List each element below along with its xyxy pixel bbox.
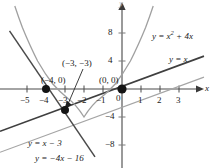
coordinate-graph-figure: −5 −4 −3 −2 −1 0 1 2 3 8 4 −4 −8 x y y =…: [0, 0, 213, 168]
point-label-0-0: (0, 0): [99, 76, 119, 85]
equation-label-identity: y = x: [169, 55, 188, 64]
y-axis-name-label: y: [119, 0, 123, 8]
x-tick-label-neg4: −4: [39, 96, 48, 105]
data-point-neg4-0: [42, 85, 50, 93]
equation-label-x-minus-3: y = x − 3: [28, 139, 62, 148]
x-axis-arrowhead: [196, 85, 204, 92]
point-label-neg4-0: (−4, 0): [41, 76, 66, 85]
equation-label-steep-negative: y = −4x − 16: [35, 154, 84, 163]
equation-label-parabola: y = x2 + 4x: [152, 32, 193, 41]
x-tick-label-0: 0: [116, 94, 120, 103]
x-tick-label-1: 1: [138, 96, 142, 105]
x-tick-label-3: 3: [176, 96, 180, 105]
x-tick-label-neg1: −1: [96, 96, 105, 105]
equation-parabola-lhs: y = x: [152, 31, 171, 41]
equation-parabola-rhs: + 4x: [174, 31, 193, 41]
y-tick-label-neg4: −4: [105, 112, 114, 121]
point-label-neg3-neg3: (−3, −3): [62, 59, 92, 68]
x-tick-label-2: 2: [157, 96, 161, 105]
x-tick-label-neg3: −3: [58, 96, 67, 105]
y-tick-label-8: 8: [108, 28, 112, 37]
y-tick-label-neg8: −8: [105, 140, 114, 149]
x-tick-label-neg2: −2: [77, 96, 86, 105]
x-axis-name-label: x: [205, 84, 209, 93]
data-point-neg3-neg3: [61, 106, 69, 114]
x-tick-label-neg5: −5: [20, 96, 29, 105]
y-tick-label-4: 4: [108, 56, 112, 65]
curve-line-identity: [0, 56, 204, 131]
